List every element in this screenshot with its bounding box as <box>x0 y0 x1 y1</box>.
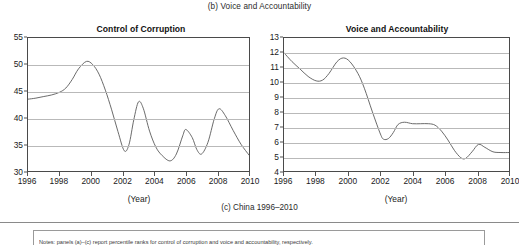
x-tick-label: 2010 <box>501 176 519 186</box>
x-tick-label: 1998 <box>306 176 325 186</box>
chart-panel-control-of-corruption: Control of Corruption 303540455055 19961… <box>6 24 258 204</box>
grid-line <box>28 92 249 93</box>
grid-line <box>28 65 249 66</box>
line-series-left <box>28 38 249 171</box>
charts-container: Control of Corruption 303540455055 19961… <box>0 24 519 204</box>
y-tick-label: 5 <box>274 152 279 162</box>
grid-line <box>284 158 509 159</box>
grid-line <box>284 83 509 84</box>
x-tick-label: 2000 <box>81 176 100 186</box>
y-tick-label: 55 <box>14 32 23 42</box>
x-axis-labels-right: 19961998200020022004200620082010 <box>283 176 510 188</box>
y-tick-label: 10 <box>270 77 279 87</box>
x-tick-label: 1996 <box>18 176 37 186</box>
chart-title-left: Control of Corruption <box>6 24 258 34</box>
figure-page: (b) Voice and Accountability Control of … <box>0 0 519 245</box>
y-tick-label: 9 <box>274 92 279 102</box>
grid-line <box>28 119 249 120</box>
y-tick-label: 35 <box>14 140 23 150</box>
notes-text: Notes: panels (a)–(c) report percentile … <box>39 239 481 245</box>
bottom-caption: (c) China 1996–2010 <box>0 203 519 212</box>
y-tick-label: 11 <box>270 62 279 72</box>
x-tick-label: 1996 <box>274 176 293 186</box>
notes-box: Notes: panels (a)–(c) report percentile … <box>33 230 485 245</box>
plot-area-right <box>283 37 510 172</box>
horizontal-rule <box>0 222 519 223</box>
grid-line <box>284 113 509 114</box>
y-tick-label: 8 <box>274 107 279 117</box>
chart-title-right: Voice and Accountability <box>264 24 516 34</box>
grid-line <box>284 68 509 69</box>
y-tick-label: 50 <box>14 59 23 69</box>
line-series-right <box>284 38 509 171</box>
x-tick-label: 2006 <box>436 176 455 186</box>
grid-line <box>28 146 249 147</box>
x-tick-label: 2008 <box>468 176 487 186</box>
grid-line <box>284 98 509 99</box>
x-tick-label: 1998 <box>50 176 69 186</box>
plot-wrapper-left: 303540455055 <box>6 37 258 172</box>
x-tick-label: 2004 <box>403 176 422 186</box>
x-tick-label: 2000 <box>339 176 358 186</box>
y-axis-labels-left: 303540455055 <box>6 37 27 172</box>
grid-line <box>284 53 509 54</box>
x-tick-label: 2002 <box>113 176 132 186</box>
top-caption: (b) Voice and Accountability <box>0 2 519 11</box>
y-tick-label: 45 <box>14 86 23 96</box>
y-tick-label: 40 <box>14 113 23 123</box>
grid-line <box>284 143 509 144</box>
y-axis-labels-right: 45678910111213 <box>264 37 283 172</box>
chart-panel-voice-and-accountability: Voice and Accountability 45678910111213 … <box>264 24 516 204</box>
plot-area-left <box>27 37 250 172</box>
y-tick-label: 13 <box>270 32 279 42</box>
plot-wrapper-right: 45678910111213 <box>264 37 516 172</box>
y-tick-label: 12 <box>270 47 279 57</box>
x-tick-label: 2008 <box>209 176 228 186</box>
grid-line <box>284 128 509 129</box>
y-tick-label: 6 <box>274 137 279 147</box>
x-axis-labels-left: 19961998200020022004200620082010 <box>27 176 250 188</box>
x-tick-label: 2002 <box>371 176 390 186</box>
x-tick-label: 2006 <box>177 176 196 186</box>
y-tick-label: 7 <box>274 122 279 132</box>
x-tick-label: 2010 <box>241 176 260 186</box>
x-tick-label: 2004 <box>145 176 164 186</box>
